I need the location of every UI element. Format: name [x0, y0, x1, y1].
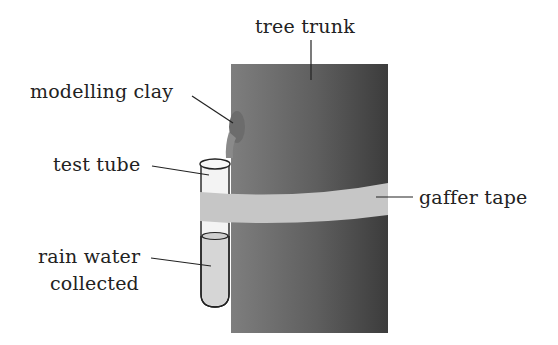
label-modelling-clay: modelling clay [30, 80, 173, 102]
label-gaffer-tape: gaffer tape [419, 186, 528, 208]
test-tube [200, 159, 230, 307]
label-test-tube: test tube [53, 153, 140, 175]
label-tree-trunk: tree trunk [255, 15, 355, 37]
label-rain-water-line1: rain water [38, 245, 140, 267]
rain-water [202, 236, 228, 306]
label-rain-water-line2: collected [50, 272, 139, 294]
leader-modelling-clay [192, 96, 233, 123]
